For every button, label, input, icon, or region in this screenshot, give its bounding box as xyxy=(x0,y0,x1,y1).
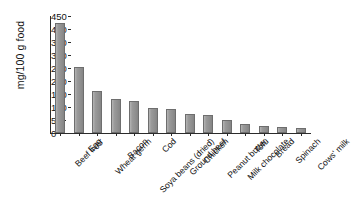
x-axis-tick xyxy=(134,133,135,136)
x-axis-tick xyxy=(60,133,61,136)
x-axis-tick xyxy=(227,133,228,136)
x-axis-line xyxy=(50,133,311,134)
bar xyxy=(129,101,139,133)
x-axis-tick xyxy=(79,133,80,136)
x-axis-tick xyxy=(116,133,117,136)
x-axis-tick xyxy=(153,133,154,136)
x-axis-tick xyxy=(301,133,302,136)
bar xyxy=(259,126,269,133)
x-axis-tick xyxy=(190,133,191,136)
bar xyxy=(203,115,213,133)
bar xyxy=(240,124,250,133)
x-axis-tick xyxy=(264,133,265,136)
bar xyxy=(92,91,102,133)
x-axis-tick xyxy=(245,133,246,136)
x-axis-tick-label: Cod xyxy=(160,137,178,155)
plot-area xyxy=(51,16,310,133)
bar xyxy=(74,67,84,133)
bar xyxy=(111,99,121,133)
bar xyxy=(148,108,158,133)
bar xyxy=(55,23,65,134)
bar xyxy=(185,114,195,133)
x-axis-tick-label: Bread xyxy=(273,137,296,160)
bar xyxy=(222,120,232,133)
y-axis-title: mg/100 g food xyxy=(14,0,26,116)
bar xyxy=(166,109,176,133)
